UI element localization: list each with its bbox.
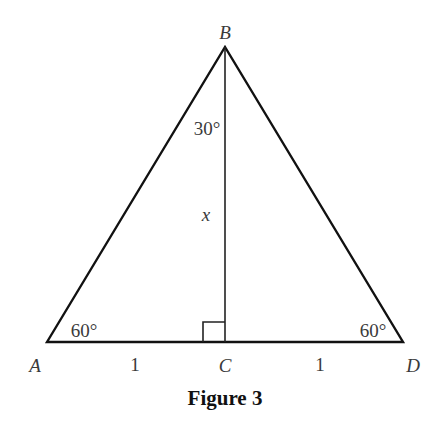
- segment-label-bc: x: [201, 204, 211, 225]
- vertex-label-d: D: [405, 355, 420, 376]
- figure-caption: Figure 3: [188, 386, 263, 410]
- angle-label-a: 60°: [71, 320, 98, 341]
- angle-label-d: 60°: [360, 320, 387, 341]
- vertex-label-b: B: [219, 22, 231, 43]
- segment-label-cd: 1: [315, 354, 325, 375]
- vertex-label-a: A: [27, 355, 41, 376]
- angle-label-b: 30°: [194, 118, 221, 139]
- triangle-diagram: B 30° x 60° 60° A 1 C 1 D Figure 3: [0, 0, 444, 429]
- segment-label-ac: 1: [130, 354, 140, 375]
- right-angle-marker: [203, 322, 225, 342]
- vertex-label-c: C: [219, 355, 232, 376]
